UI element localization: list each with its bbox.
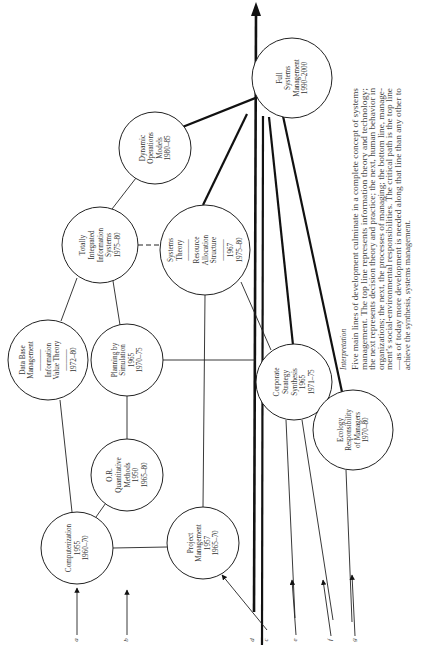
svg-text:Dynamic: Dynamic — [139, 135, 147, 161]
interpretation-line: organizations; the next, the processes o… — [378, 87, 386, 370]
svg-text:1990–2000: 1990–2000 — [301, 61, 309, 94]
svg-text:1965–80: 1965–80 — [141, 462, 149, 488]
svg-text:Project: Project — [187, 533, 195, 553]
svg-text:1971–75: 1971–75 — [308, 369, 316, 395]
interpretation-line: management. The top line represents info… — [361, 88, 369, 370]
svg-text:Methods: Methods — [124, 462, 132, 487]
svg-text:Information: Information — [97, 227, 105, 262]
svg-text:Synthesis: Synthesis — [291, 368, 299, 396]
systems-management-diagram: FullSystemsManagement1990–2000DynamicOpe… — [0, 0, 430, 646]
svg-text:Models: Models — [156, 137, 164, 159]
svg-text:1972–80: 1972–80 — [70, 347, 78, 373]
svg-text:1965: 1965 — [128, 352, 136, 367]
corporate-strategy-synthesis-label: CorporateStrategySynthesis19651971–75 — [273, 368, 315, 397]
input-labels: abdcefg — [72, 638, 358, 642]
interpretation-line: the next represents decision theory and … — [369, 87, 377, 370]
svg-text:1965–70: 1965–70 — [212, 530, 220, 556]
svg-text:Systems: Systems — [167, 238, 175, 262]
svg-text:Management: Management — [195, 524, 203, 562]
svg-text:1970–80: 1970–80 — [362, 417, 370, 443]
svg-text:———: ——— — [62, 348, 70, 371]
svg-text:Systems: Systems — [284, 66, 292, 90]
svg-text:Strategy: Strategy — [282, 370, 290, 394]
svg-text:Allocation: Allocation — [202, 234, 210, 265]
interpretation-line: ment’s social-environmental responsibili… — [386, 88, 394, 370]
svg-text:Quantitative: Quantitative — [115, 457, 123, 493]
svg-text:Integrated: Integrated — [88, 230, 96, 260]
svg-text:of Managers: of Managers — [354, 412, 362, 448]
svg-text:Value Theory: Value Theory — [53, 340, 61, 379]
svg-text:Full: Full — [276, 72, 284, 84]
svg-text:1975–80: 1975–80 — [236, 237, 244, 263]
svg-text:Information: Information — [45, 342, 53, 377]
interpretation-line: Five main lines of development culminate… — [352, 88, 360, 370]
svg-text:O.R.: O.R. — [106, 468, 114, 482]
svg-text:Operations: Operations — [147, 132, 155, 164]
svg-text:Theory: Theory — [176, 239, 184, 260]
svg-text:1975–80: 1975–80 — [114, 232, 122, 258]
svg-text:———: ——— — [36, 348, 44, 371]
svg-text:1980–85: 1980–85 — [164, 135, 172, 161]
svg-text:1967: 1967 — [227, 242, 235, 257]
svg-text:———: ——— — [184, 238, 192, 261]
svg-text:Computerization: Computerization — [65, 523, 73, 572]
input-label-b: b — [122, 638, 130, 642]
input-label-f: f — [326, 638, 334, 641]
svg-text:1957: 1957 — [204, 535, 212, 550]
svg-text:1970–75: 1970–75 — [136, 347, 144, 373]
input-label-d: d — [248, 638, 256, 642]
interpretation-text: InterpretationFive main lines of develop… — [339, 87, 412, 371]
svg-text:———: ——— — [219, 238, 227, 261]
svg-text:Corporate: Corporate — [273, 368, 281, 397]
input-label-c: c — [262, 638, 270, 642]
svg-text:Management: Management — [27, 341, 35, 379]
svg-text:Totally: Totally — [79, 234, 87, 255]
svg-text:1960–70: 1960–70 — [82, 535, 90, 561]
svg-text:Resource: Resource — [193, 237, 201, 264]
svg-text:Responsibility: Responsibility — [345, 409, 353, 451]
svg-text:Systems: Systems — [105, 233, 113, 257]
interpretation-line: achieve the synthesis, systems managemen… — [404, 220, 412, 370]
svg-text:1955: 1955 — [74, 540, 82, 555]
svg-text:1965: 1965 — [299, 374, 307, 389]
input-arrows — [77, 575, 355, 636]
interpretation-title: Interpretation — [339, 329, 348, 371]
svg-text:Planning by: Planning by — [111, 342, 119, 377]
svg-text:Management: Management — [293, 59, 301, 97]
svg-text:Simulation: Simulation — [119, 344, 127, 376]
input-label-a: a — [72, 638, 80, 642]
svg-text:Data Base: Data Base — [19, 345, 27, 374]
svg-text:1950: 1950 — [132, 467, 140, 482]
input-label-g: g — [350, 638, 358, 642]
svg-text:Ecology: Ecology — [337, 418, 345, 442]
input-label-e: e — [291, 638, 299, 641]
svg-text:Structure: Structure — [210, 237, 218, 263]
interpretation-line: —as of today more development is needed … — [395, 87, 403, 371]
